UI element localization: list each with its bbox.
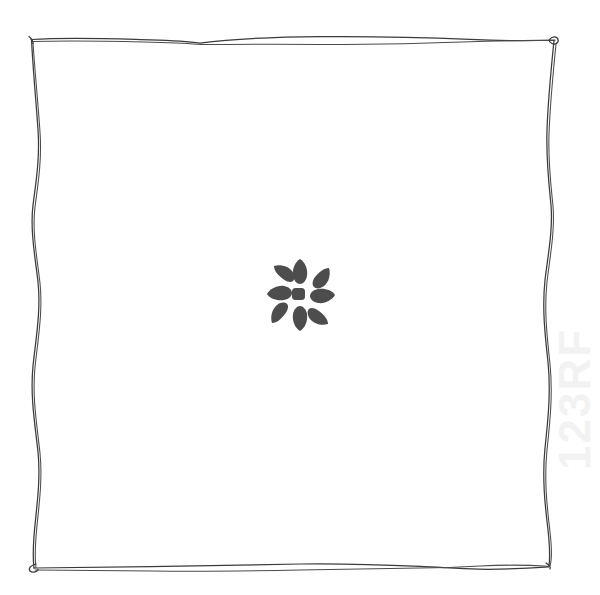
watermark-label: 123RF [550,328,599,470]
hand-drawn-illustration: 123RF [0,0,600,595]
glyph-center-dot [292,288,305,300]
edge-watermark: 123RF [550,328,599,470]
artwork-canvas: Hand-drawn frame with flower glyph 123RF [0,0,600,595]
flower-asterisk-glyph [267,259,335,331]
